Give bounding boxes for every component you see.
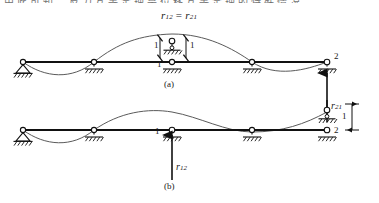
node-2-label-b: 2 <box>334 126 339 135</box>
caption-a: (a) <box>164 80 174 89</box>
dimension-label-b: 1 <box>342 112 347 121</box>
dimension-unit-displacement-b <box>345 104 359 130</box>
dimension-label-a-left: 1 <box>154 41 159 50</box>
reciprocal-reactions-figure: 由此可知，反力互等定理是位移互等定理的特殊情况 r12 = r21 <box>0 0 379 203</box>
dimension-label-a-right: 1 <box>190 41 195 50</box>
support-displaced-a-node1 <box>164 38 183 54</box>
node-1-label-a: 1 <box>157 60 162 69</box>
reaction-subscript-r12: 12 <box>180 164 187 172</box>
figure-svg-canvas <box>0 0 379 203</box>
reaction-subscript-r21: 21 <box>335 103 342 111</box>
node-2-label-a: 2 <box>334 52 339 61</box>
node-1-label-b: 1 <box>155 127 160 136</box>
reaction-label-r21: r21 <box>331 101 342 111</box>
deflection-curve-b <box>23 111 327 143</box>
caption-b: (b) <box>164 182 175 191</box>
reaction-label-r12: r12 <box>176 162 187 172</box>
diagram-a <box>14 34 337 122</box>
